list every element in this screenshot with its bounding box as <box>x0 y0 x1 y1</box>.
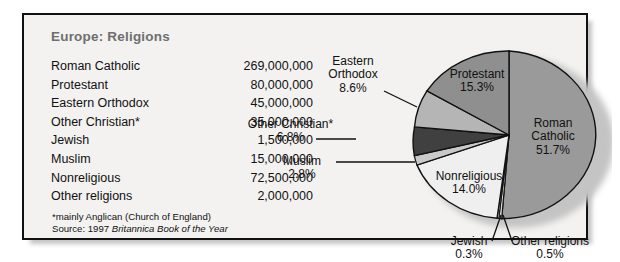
label-eastern-orthodox-name2: Orthodox <box>328 67 377 81</box>
table-cell-name: Jewish <box>51 131 89 150</box>
label-protestant-pct: 15.3% <box>433 81 521 94</box>
label-eastern-orthodox: Eastern Orthodox 8.6% <box>309 55 397 95</box>
table-row: Protestant 80,000,000 <box>51 76 313 95</box>
table-row: Roman Catholic 269,000,000 <box>51 57 313 76</box>
table-cell-name: Roman Catholic <box>51 57 140 76</box>
label-other-religions-name: Other religions <box>511 234 589 248</box>
table-cell-value: 269,000,000 <box>243 57 313 76</box>
table-cell-name: Muslim <box>51 150 91 169</box>
table-cell-name: Other Christian* <box>51 113 140 132</box>
table-row: Other religions 2,000,000 <box>51 187 313 206</box>
label-roman-catholic: Roman Catholic 51.7% <box>515 117 591 157</box>
label-other-religions-pct: 0.5% <box>499 248 601 261</box>
table-cell-name: Other religions <box>51 187 132 206</box>
label-other-christian-name: Other Christian* <box>248 117 333 131</box>
label-eastern-orthodox-pct: 8.6% <box>309 82 397 95</box>
table-cell-name: Protestant <box>51 76 108 95</box>
label-other-christian: Other Christian* 6.8% <box>233 118 348 145</box>
label-other-christian-pct: 6.8% <box>233 131 348 144</box>
label-roman-catholic-name: Roman <box>534 116 573 130</box>
label-nonreligious-name: Nonreligious <box>436 169 503 183</box>
label-muslim: Muslim 2.8% <box>268 155 336 182</box>
table-row: Eastern Orthodox 45,000,000 <box>51 94 313 113</box>
table-cell-name: Nonreligious <box>51 169 120 188</box>
label-eastern-orthodox-name: Eastern <box>332 54 373 68</box>
footnote-source-title: Britannica Book of the Year <box>112 223 228 234</box>
table-cell-name: Eastern Orthodox <box>51 94 149 113</box>
chart-panel: Europe: Religions Roman Catholic 269,000… <box>22 13 588 240</box>
footnote-source-prefix: Source: 1997 <box>52 223 112 234</box>
label-muslim-name: Muslim <box>283 154 321 168</box>
table-cell-value: 2,000,000 <box>257 187 313 206</box>
label-nonreligious-pct: 14.0% <box>419 183 519 196</box>
label-other-religions: Other religions 0.5% <box>499 235 601 262</box>
label-jewish: Jewish 0.3% <box>435 235 503 262</box>
footnote: *mainly Anglican (Church of England) Sou… <box>52 211 228 234</box>
footnote-source: Source: 1997 Britannica Book of the Year <box>52 223 228 235</box>
label-jewish-name: Jewish <box>451 234 488 248</box>
table-cell-value: 80,000,000 <box>250 76 313 95</box>
label-nonreligious: Nonreligious 14.0% <box>419 170 519 197</box>
page-title: Europe: Religions <box>51 29 170 44</box>
footnote-anglican: *mainly Anglican (Church of England) <box>52 211 228 223</box>
label-protestant-name: Protestant <box>450 67 505 81</box>
label-jewish-pct: 0.3% <box>435 248 503 261</box>
pie-chart: Eastern Orthodox 8.6% Other Christian* 6… <box>316 29 612 255</box>
label-roman-catholic-name2: Catholic <box>531 129 574 143</box>
label-protestant: Protestant 15.3% <box>433 68 521 95</box>
label-muslim-pct: 2.8% <box>268 168 336 181</box>
label-roman-catholic-pct: 51.7% <box>515 144 591 157</box>
table-cell-value: 45,000,000 <box>250 94 313 113</box>
